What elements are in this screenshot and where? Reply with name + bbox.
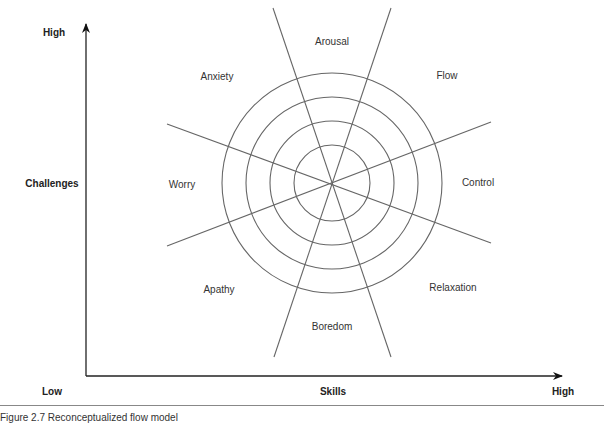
sector-label-boredom: Boredom [312,321,353,332]
sector-label-apathy: Apathy [203,284,234,295]
y-axis-label: Challenges [25,178,78,189]
sector-label-worry: Worry [169,179,195,190]
low-label: Low [42,386,62,397]
sector-label-flow: Flow [436,70,457,81]
x-axis-label: Skills [320,386,346,397]
sector-label-arousal: Arousal [315,36,349,47]
sector-label-anxiety: Anxiety [201,71,234,82]
caption-divider [0,405,604,406]
y-axis-high-label: High [43,27,65,38]
x-axis-high-label: High [552,386,574,397]
figure-caption: Figure 2.7 Reconceptualized flow model [0,412,178,423]
sector-label-relaxation: Relaxation [429,282,476,293]
sector-label-control: Control [462,177,494,188]
